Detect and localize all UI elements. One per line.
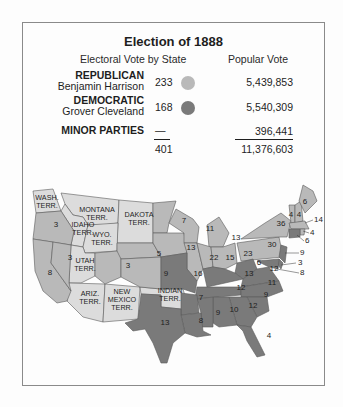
svg-text:TERR.: TERR. bbox=[159, 294, 181, 303]
svg-text:TERR.: TERR. bbox=[111, 303, 133, 312]
svg-text:TERR.: TERR. bbox=[72, 228, 94, 237]
svg-text:11: 11 bbox=[206, 224, 215, 233]
arkansas bbox=[181, 293, 199, 315]
svg-text:4: 4 bbox=[297, 210, 302, 219]
florida bbox=[237, 325, 265, 357]
svg-text:TERR.: TERR. bbox=[128, 218, 150, 227]
svg-text:11: 11 bbox=[268, 278, 277, 287]
svg-text:13: 13 bbox=[245, 269, 254, 278]
svg-text:5: 5 bbox=[157, 249, 162, 258]
svg-text:13: 13 bbox=[232, 233, 241, 242]
svg-text:10: 10 bbox=[230, 305, 239, 314]
svg-text:12: 12 bbox=[237, 283, 246, 292]
svg-text:6: 6 bbox=[303, 197, 308, 206]
svg-text:3: 3 bbox=[126, 261, 131, 270]
colorado bbox=[95, 251, 121, 284]
svg-text:6: 6 bbox=[257, 258, 262, 267]
svg-text:12: 12 bbox=[270, 264, 279, 273]
svg-text:22: 22 bbox=[210, 253, 219, 262]
svg-text:8: 8 bbox=[48, 268, 53, 277]
connecticut bbox=[289, 229, 300, 238]
svg-text:9: 9 bbox=[264, 290, 269, 299]
svg-text:3: 3 bbox=[68, 253, 73, 262]
svg-text:4: 4 bbox=[310, 228, 315, 237]
svg-text:7: 7 bbox=[182, 216, 187, 225]
svg-text:12: 12 bbox=[249, 301, 258, 310]
svg-text:TERR.: TERR. bbox=[74, 264, 96, 273]
svg-text:9: 9 bbox=[300, 248, 305, 257]
svg-text:3: 3 bbox=[298, 258, 303, 267]
svg-text:15: 15 bbox=[226, 253, 235, 262]
svg-text:3: 3 bbox=[54, 220, 59, 229]
election-figure: Election of 1888 Electoral Vote by State… bbox=[22, 22, 325, 386]
svg-text:13: 13 bbox=[187, 243, 196, 252]
svg-text:9: 9 bbox=[164, 269, 169, 278]
svg-text:8: 8 bbox=[199, 316, 204, 325]
svg-text:9: 9 bbox=[216, 308, 221, 317]
svg-text:23: 23 bbox=[244, 249, 253, 258]
svg-text:TERR.: TERR. bbox=[91, 238, 113, 247]
svg-text:36: 36 bbox=[277, 219, 286, 228]
svg-text:4: 4 bbox=[289, 210, 294, 219]
rhodeisland bbox=[300, 229, 305, 235]
svg-text:8: 8 bbox=[300, 268, 305, 277]
svg-text:4: 4 bbox=[267, 331, 272, 340]
svg-text:TERR.: TERR. bbox=[79, 297, 101, 306]
svg-text:13: 13 bbox=[161, 318, 170, 327]
us-electoral-map: WASH. TERR. MONTANA TERR. DAKOTA TERR. I… bbox=[23, 23, 326, 387]
svg-text:30: 30 bbox=[268, 240, 277, 249]
svg-text:7: 7 bbox=[199, 293, 204, 302]
svg-text:6: 6 bbox=[305, 236, 310, 245]
svg-text:14: 14 bbox=[314, 215, 323, 224]
svg-text:16: 16 bbox=[194, 269, 203, 278]
svg-text:TERR.: TERR. bbox=[36, 201, 58, 210]
